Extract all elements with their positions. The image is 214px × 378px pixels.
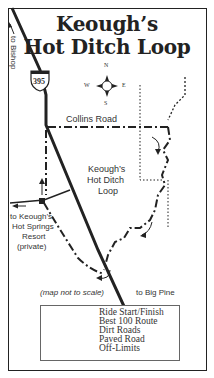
compass-s: S [104, 100, 107, 106]
not-to-scale-note: (map not to scale) [40, 288, 104, 297]
resort-label-2: Hot Springs [12, 222, 54, 231]
loop-label-2: Hot Ditch [87, 175, 124, 185]
dirt-road-north [168, 77, 185, 120]
to-bishop-label: to Bishop [9, 36, 18, 69]
arrow-loop-south-2-icon [142, 222, 152, 235]
compass-w: W [84, 82, 90, 88]
highway-label: 395 [33, 77, 45, 86]
compass-rose-icon [96, 75, 118, 97]
loop-label-1: Keough’s [88, 164, 125, 174]
map-legend: Ride Start/Finish Best 100 Route Dirt Ro… [40, 305, 180, 361]
route-south-segment [44, 203, 104, 274]
map-title-line1: Keough’s [0, 12, 214, 36]
collins-road-label: Collins Road [66, 114, 117, 124]
to-big-pine-label: to Big Pine [136, 288, 175, 297]
map-title-line2: Hot Ditch Loop [0, 35, 214, 59]
resort-label-4: (private) [17, 242, 46, 251]
compass-n: N [104, 62, 108, 68]
resort-label-3: Resort [22, 232, 46, 241]
loop-label-3: Loop [98, 186, 118, 196]
loop-east-route [104, 127, 170, 270]
off-limits-line-1 [140, 85, 162, 180]
resort-label-1: to Keough’s [10, 212, 52, 221]
compass-e: E [122, 82, 126, 88]
ride-start-finish-icon [39, 198, 45, 204]
legend-item-offlimits: Off-Limits [41, 345, 181, 355]
